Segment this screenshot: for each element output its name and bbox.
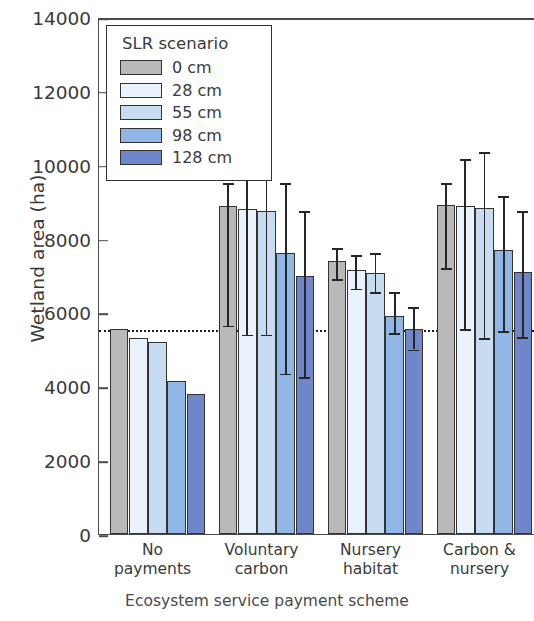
bar (187, 394, 206, 534)
y-tick-label: 12000 (32, 81, 98, 102)
error-bar (484, 152, 486, 338)
legend-item: 128 cm (120, 148, 262, 167)
error-bar-cap (498, 331, 509, 333)
y-tick-text: 14000 (32, 8, 91, 29)
error-bar-cap (441, 183, 452, 185)
y-tick-text: 12000 (32, 81, 91, 102)
x-category-label: Carbon &nursery (425, 541, 534, 580)
wetland-area-bar-chart: Wetland area (ha) 0200040006000800010000… (0, 0, 534, 621)
legend-item: 0 cm (120, 58, 262, 77)
legend-swatch (120, 83, 162, 98)
error-bar (355, 255, 357, 288)
error-bar-cap (351, 255, 362, 257)
error-bar-cap (479, 152, 490, 154)
legend-item: 55 cm (120, 103, 262, 122)
y-tick-label: 8000 (44, 229, 98, 250)
legend: SLR scenario 0 cm28 cm55 cm98 cm128 cm (106, 25, 272, 181)
bar (366, 273, 385, 534)
legend-label: 55 cm (172, 103, 222, 122)
legend-label: 128 cm (172, 148, 232, 167)
y-tick-label: 4000 (44, 377, 98, 398)
y-tick-label: 0 (79, 525, 98, 546)
legend-swatch (120, 60, 162, 75)
error-bar-cap (460, 329, 471, 331)
error-bar (445, 183, 447, 268)
legend-title: SLR scenario (122, 34, 262, 53)
error-bar-cap (351, 289, 362, 291)
error-bar (227, 183, 229, 325)
error-bar-cap (242, 335, 253, 337)
y-tick-mark (99, 240, 108, 242)
error-bar-cap (332, 248, 343, 250)
bar (110, 329, 129, 534)
error-bar-cap (441, 268, 452, 270)
error-bar (413, 307, 415, 349)
error-bar-cap (498, 196, 509, 198)
error-bar (336, 248, 338, 279)
y-tick-label: 14000 (32, 8, 98, 29)
error-bar-cap (389, 292, 400, 294)
legend-swatch (120, 128, 162, 143)
y-tick-label: 10000 (32, 155, 98, 176)
y-tick-text: 4000 (44, 377, 91, 398)
bar (328, 261, 347, 534)
y-tick-text: 10000 (32, 155, 91, 176)
bar (385, 316, 404, 534)
error-bar (285, 183, 287, 373)
error-bar-cap (280, 183, 291, 185)
error-bar-cap (299, 211, 310, 213)
legend-swatch (120, 150, 162, 165)
error-bar-cap (517, 211, 528, 213)
bar (129, 338, 148, 534)
error-bar-cap (370, 292, 381, 294)
error-bar (503, 196, 505, 331)
x-axis-title: Ecosystem service payment scheme (0, 592, 534, 610)
legend-label: 98 cm (172, 126, 222, 145)
x-category-label-line: Voluntary (207, 541, 316, 560)
error-bar-cap (408, 350, 419, 352)
error-bar-cap (408, 307, 419, 309)
legend-swatch (120, 105, 162, 120)
x-category-label: Nurseryhabitat (316, 541, 425, 580)
x-category-label: Nopayments (98, 541, 207, 580)
error-bar-cap (370, 253, 381, 255)
legend-item: 28 cm (120, 81, 262, 100)
legend-label: 0 cm (172, 58, 212, 77)
x-category-label-line: No (98, 541, 207, 560)
y-tick-label: 2000 (44, 451, 98, 472)
error-bar-cap (332, 279, 343, 281)
x-category-label-line: habitat (316, 560, 425, 579)
y-tick-mark (99, 461, 108, 463)
x-category-label-line: Nursery (316, 541, 425, 560)
error-bar-cap (299, 377, 310, 379)
y-tick-mark (99, 314, 108, 316)
error-bar (246, 159, 248, 334)
legend-label: 28 cm (172, 81, 222, 100)
error-bar (304, 211, 306, 377)
y-tick-label: 6000 (44, 303, 98, 324)
x-category-label-line: payments (98, 560, 207, 579)
x-category-label-line: carbon (207, 560, 316, 579)
bar (167, 381, 186, 534)
y-tick-text: 0 (79, 525, 91, 546)
error-bar-cap (223, 326, 234, 328)
x-category-label-line: nursery (425, 560, 534, 579)
bar (148, 342, 167, 534)
error-bar-cap (479, 338, 490, 340)
error-bar (522, 211, 524, 337)
y-tick-mark (99, 387, 108, 389)
legend-item: 98 cm (120, 126, 262, 145)
x-category-label: Voluntarycarbon (207, 541, 316, 580)
y-tick-text: 2000 (44, 451, 91, 472)
error-bar-cap (261, 335, 272, 337)
y-tick-text: 8000 (44, 229, 91, 250)
y-tick-mark (99, 535, 108, 537)
bar (347, 270, 366, 534)
error-bar-cap (223, 183, 234, 185)
error-bar (464, 159, 466, 329)
bar (405, 329, 424, 534)
legend-rows: 0 cm28 cm55 cm98 cm128 cm (116, 58, 262, 167)
error-bar-cap (517, 337, 528, 339)
frame-top-edge (98, 18, 534, 20)
error-bar (266, 157, 268, 334)
